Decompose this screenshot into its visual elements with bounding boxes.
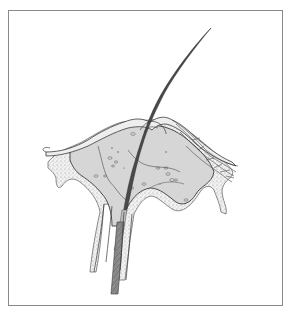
hair-follicle-illustration bbox=[0, 0, 298, 320]
